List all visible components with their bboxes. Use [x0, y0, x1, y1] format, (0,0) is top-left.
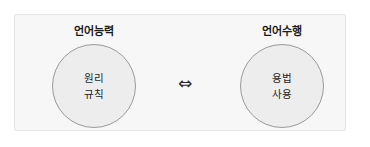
- diagram-canvas: 언어능력 원리 규칙 ⇔ 언어수행 용법 사용: [0, 0, 370, 147]
- node-competence-circle: 원리 규칙: [52, 44, 136, 128]
- node-competence-label: 언어능력: [74, 26, 113, 39]
- node-competence-line-2: 규칙: [84, 86, 104, 102]
- node-performance-label: 언어수행: [262, 26, 301, 39]
- node-performance-circle: 용법 사용: [240, 44, 324, 128]
- left-right-double-arrow-icon: ⇔: [165, 70, 205, 96]
- node-performance: 언어수행 용법 사용: [227, 26, 337, 130]
- node-performance-line-1: 용법: [272, 70, 292, 86]
- node-performance-line-2: 사용: [272, 86, 292, 102]
- node-competence-line-1: 원리: [84, 70, 104, 86]
- node-competence: 언어능력 원리 규칙: [39, 26, 149, 130]
